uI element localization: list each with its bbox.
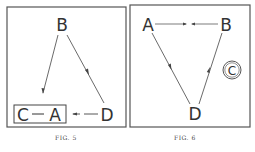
node-c: C: [17, 105, 29, 125]
figure-6: A B D C: [130, 5, 250, 127]
arrowhead-icon: [191, 23, 195, 26]
node-a: A: [49, 105, 61, 125]
arrowhead-icon: [207, 67, 210, 73]
node-d: D: [188, 104, 201, 124]
diagram-canvas: B C A D A B D C: [0, 0, 255, 152]
node-a: A: [142, 15, 154, 35]
figure-5-caption: FIG. 5: [55, 134, 77, 141]
node-b: B: [220, 15, 232, 35]
node-c: C: [228, 64, 236, 78]
node-b: B: [56, 15, 68, 35]
edge-b-to-ca: [43, 35, 58, 93]
arrowhead-icon: [183, 23, 187, 26]
edge-d-b: [67, 35, 104, 103]
arrowhead-icon: [72, 113, 77, 116]
figure-5: B C A D: [7, 7, 126, 127]
node-d: D: [100, 105, 113, 125]
edge-b-d: [199, 33, 222, 104]
figure-6-caption: FIG. 6: [174, 134, 196, 141]
arrowhead-icon: [42, 88, 45, 94]
